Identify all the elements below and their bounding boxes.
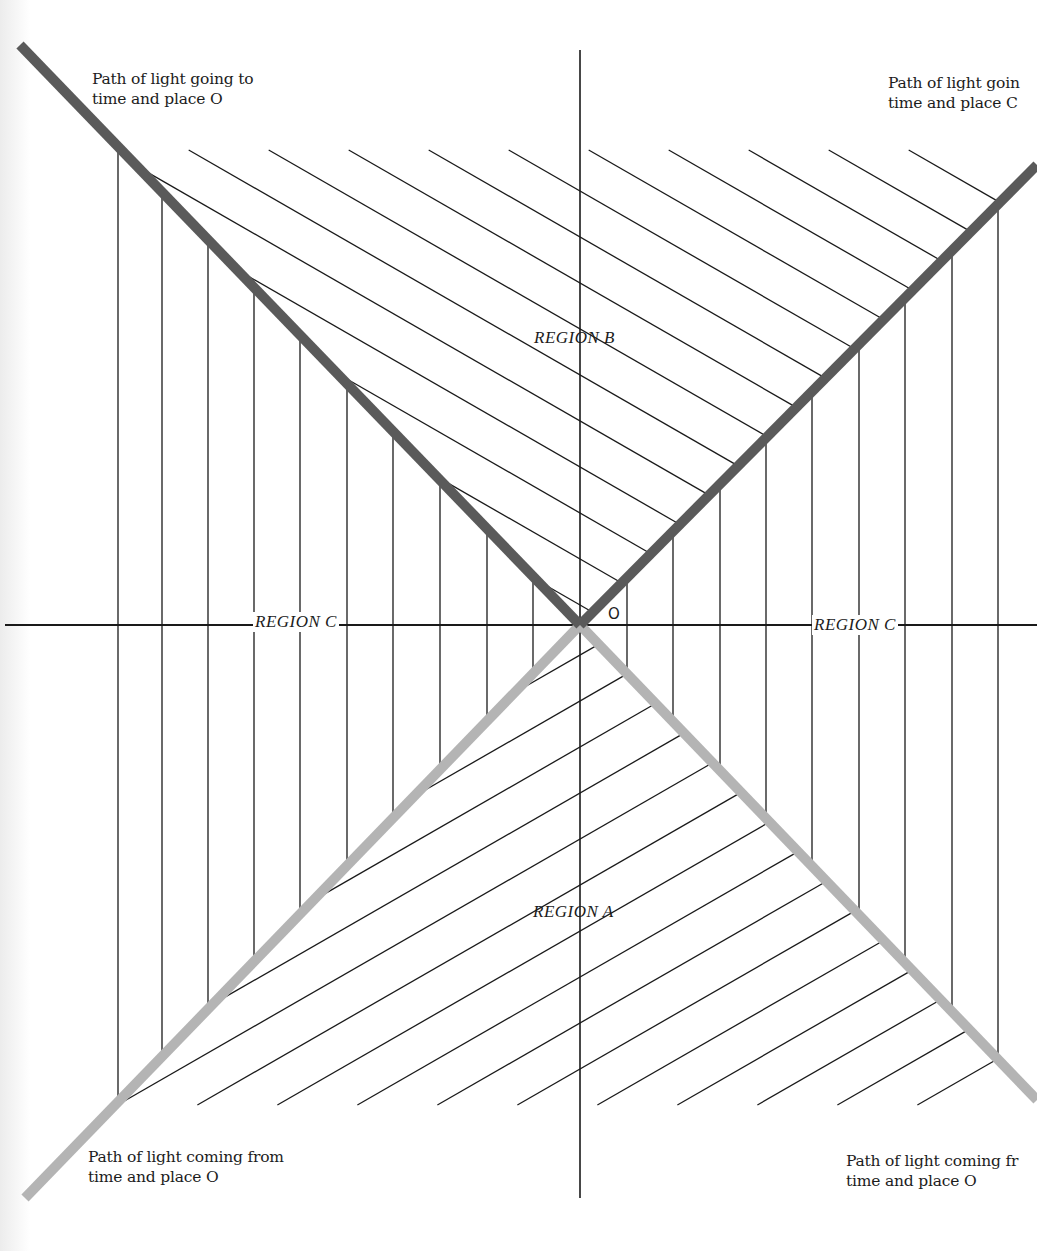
region-b-hatch-line bbox=[269, 150, 767, 437]
past-light-path-left bbox=[25, 625, 580, 1198]
region-a-hatch-line bbox=[677, 970, 912, 1105]
caption-bottom-right: Path of light coming fr time and place O bbox=[846, 1151, 1018, 1191]
region-a-hatch-line bbox=[517, 911, 855, 1105]
region-c-right-label: REGION C bbox=[812, 615, 898, 635]
region-b-hatch-line bbox=[909, 150, 1000, 202]
region-b-hatch-line bbox=[669, 150, 913, 290]
region-b-hatch-line bbox=[589, 150, 884, 320]
region-b-label: REGION B bbox=[532, 328, 617, 348]
region-a-hatch-line bbox=[757, 1000, 940, 1105]
region-a-hatch-line bbox=[357, 852, 798, 1105]
region-a-hatch-line bbox=[917, 1059, 997, 1105]
region-a-hatch-line bbox=[117, 763, 712, 1105]
origin-label: O bbox=[608, 605, 620, 623]
caption-top-left: Path of light going to time and place O bbox=[92, 69, 253, 109]
region-a-label: REGION A bbox=[531, 902, 616, 922]
region-b-hatch-line bbox=[337, 373, 651, 554]
region-a-hatch-line bbox=[213, 733, 684, 1004]
region-b-hatch-line bbox=[349, 150, 797, 407]
region-c-left-label: REGION C bbox=[253, 612, 339, 632]
caption-bottom-left: Path of light coming from time and place… bbox=[88, 1147, 284, 1187]
region-b-hatch-line bbox=[749, 150, 942, 261]
past-light-path-right bbox=[580, 625, 1037, 1100]
caption-top-right: Path of light goin time and place C bbox=[888, 73, 1020, 113]
region-a-hatching bbox=[117, 644, 997, 1105]
region-a-hatch-line bbox=[197, 792, 741, 1105]
spacetime-diagram: Path of light going to time and place O … bbox=[0, 0, 1037, 1251]
region-b-hatch-line bbox=[829, 150, 971, 232]
region-b-hatching bbox=[137, 150, 1000, 612]
region-a-hatch-line bbox=[437, 881, 826, 1105]
region-b-hatch-line bbox=[509, 150, 855, 349]
region-b-hatch-line bbox=[429, 150, 826, 378]
future-light-path-right bbox=[580, 165, 1037, 625]
region-a-hatch-line bbox=[597, 940, 883, 1105]
region-a-hatch-line bbox=[837, 1029, 969, 1105]
region-b-hatch-line bbox=[237, 270, 680, 525]
